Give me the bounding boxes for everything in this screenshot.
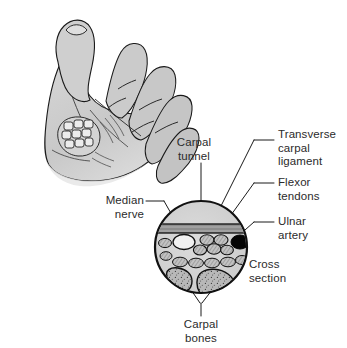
median-nerve xyxy=(173,235,195,250)
carpal-inset-bone xyxy=(75,139,84,147)
label-median-nerve: Median nerve xyxy=(84,194,144,221)
label-cross-section: Cross section xyxy=(249,258,309,285)
figure-canvas: Carpal tunnel Transverse carpal ligament… xyxy=(0,0,347,348)
hand-carpal-bone-inset xyxy=(58,117,100,156)
carpal-inset-bone xyxy=(74,120,83,128)
cross-section-diagram xyxy=(150,201,252,301)
label-transverse-carpal-ligament: Transverse carpal ligament xyxy=(278,128,346,169)
carpal-inset-bone xyxy=(64,122,73,130)
label-carpal-tunnel: Carpal tunnel xyxy=(163,136,225,163)
carpal-inset-bone xyxy=(62,131,71,139)
label-flexor-tendons: Flexor tendons xyxy=(278,176,346,203)
anatomy-illustration xyxy=(0,0,347,348)
label-ulnar-artery: Ulnar artery xyxy=(278,215,342,242)
carpal-inset-bone xyxy=(82,129,91,137)
carpal-inset-bone xyxy=(85,138,93,146)
transverse-carpal-ligament xyxy=(150,224,252,233)
carpal-inset-bone xyxy=(72,130,81,138)
carpal-inset-bone xyxy=(84,120,93,128)
carpal-inset-bone xyxy=(65,140,74,148)
label-carpal-bones: Carpal bones xyxy=(171,318,231,345)
